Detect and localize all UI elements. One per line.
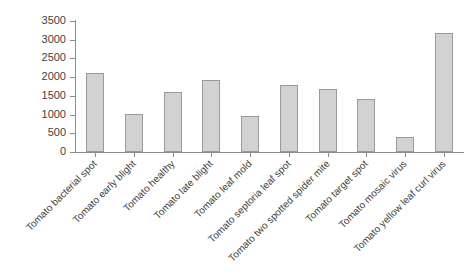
y-axis-tick-label: 1500: [42, 90, 66, 101]
x-axis-tick: [250, 153, 251, 157]
bar: [86, 73, 104, 152]
x-axis-tick: [289, 153, 290, 157]
bar: [202, 80, 220, 152]
bar: [357, 99, 375, 152]
bar: [241, 116, 259, 152]
x-axis-tick: [95, 153, 96, 157]
x-axis-tick: [134, 153, 135, 157]
x-axis-tick: [328, 153, 329, 157]
bar: [319, 89, 337, 152]
x-axis-tick-label: Tomato bacterial spot: [24, 158, 99, 233]
bar-chart: 0500100015002000250030003500 Tomato bact…: [0, 0, 474, 279]
bar: [435, 33, 453, 152]
x-axis-tick: [405, 153, 406, 157]
x-axis-tick: [173, 153, 174, 157]
bar: [125, 114, 143, 152]
x-axis-tick: [211, 153, 212, 157]
y-axis-tick-label: 1000: [42, 109, 66, 120]
bar: [164, 92, 182, 152]
y-axis-tick: [70, 152, 76, 153]
y-axis-tick-label: 2000: [42, 71, 66, 82]
x-axis-tick: [366, 153, 367, 157]
bars-container: [76, 21, 463, 152]
y-axis-tick-label: 0: [60, 146, 66, 157]
x-axis-tick: [444, 153, 445, 157]
y-axis-tick-label: 3000: [42, 34, 66, 45]
bar: [396, 137, 414, 152]
bar: [280, 85, 298, 152]
y-axis-tick-label: 3500: [42, 15, 66, 26]
y-axis-tick-label: 2500: [42, 52, 66, 63]
y-axis-tick-label: 500: [48, 127, 66, 138]
x-axis-tick-label: Tomato mosaic virus: [337, 158, 409, 230]
